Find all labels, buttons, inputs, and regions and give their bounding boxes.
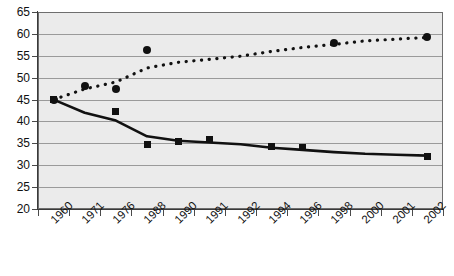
trendline-declining-series — [54, 100, 428, 156]
trendline-rising-series — [54, 37, 428, 99]
trendlines — [0, 0, 454, 276]
chart-container: 20253035404550556065 1960197119761988199… — [0, 0, 454, 276]
